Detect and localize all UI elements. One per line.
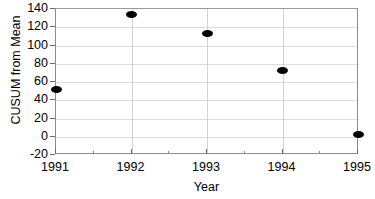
- y-axis-tick: [50, 45, 55, 46]
- y-axis-tick-label: 120: [2, 20, 48, 33]
- x-axis-tick-minor: [244, 151, 245, 154]
- y-axis-tick: [50, 136, 55, 137]
- y-axis-tick-label: 140: [2, 2, 48, 15]
- cusum-scatter-chart: CUSUM from Mean 140120100806040200-20 19…: [0, 0, 375, 199]
- x-axis-tick: [206, 149, 207, 154]
- x-axis-tick-label: 1991: [33, 160, 77, 174]
- data-point: [277, 67, 288, 74]
- y-axis-tick: [50, 154, 55, 155]
- plot-area: [55, 8, 358, 154]
- gridline-vertical: [132, 9, 133, 153]
- y-axis-tick-label: 20: [2, 112, 48, 125]
- x-axis-tick-label: 1995: [335, 160, 375, 174]
- x-axis-tick: [131, 149, 132, 154]
- x-axis-tick: [282, 149, 283, 154]
- y-axis-tick-label: 80: [2, 57, 48, 70]
- x-axis-tick: [55, 149, 56, 154]
- data-point: [202, 30, 213, 37]
- data-point: [126, 11, 137, 18]
- x-axis-tick-minor: [319, 151, 320, 154]
- x-axis-tick-label: 1992: [109, 160, 153, 174]
- x-axis-tick-label: 1993: [184, 160, 228, 174]
- y-axis-tick-label: 100: [2, 39, 48, 52]
- y-axis-tick-label: 0: [2, 130, 48, 143]
- x-axis-tick: [357, 149, 358, 154]
- x-axis-tick-minor: [168, 151, 169, 154]
- y-axis-tick-label: 60: [2, 75, 48, 88]
- y-axis-tick-label: 40: [2, 93, 48, 106]
- x-axis-tick-label: 1994: [260, 160, 304, 174]
- y-axis-tick: [50, 26, 55, 27]
- y-axis-tick: [50, 118, 55, 119]
- y-axis-tick: [50, 99, 55, 100]
- y-axis-tick: [50, 81, 55, 82]
- y-axis-tick: [50, 8, 55, 9]
- data-point: [51, 86, 62, 93]
- y-axis-tick: [50, 63, 55, 64]
- x-axis-tick-minor: [93, 151, 94, 154]
- x-axis-title: Year: [55, 180, 358, 194]
- gridline-vertical: [283, 9, 284, 153]
